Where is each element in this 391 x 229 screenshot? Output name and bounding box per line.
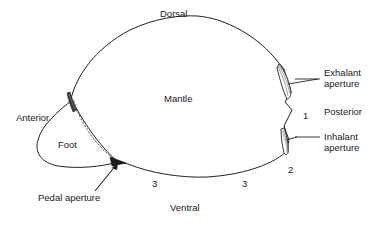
exhalant-leader-line: [288, 79, 318, 84]
label-inhalant-aperture-line1: Inhalant: [324, 131, 358, 142]
bivalve-anatomy-diagram: Dorsal Ventral Anterior Posterior Mantle…: [0, 0, 391, 229]
fusion-point-2: 2: [288, 164, 293, 175]
fusion-point-3-left: 3: [152, 178, 157, 189]
label-exhalant-aperture-line1: Exhalant: [324, 67, 361, 78]
label-posterior: Posterior: [324, 106, 362, 117]
label-pedal-aperture: Pedal aperture: [38, 192, 100, 203]
label-anterior: Anterior: [16, 112, 49, 123]
fusion-point-1: 1: [303, 110, 308, 121]
label-foot: Foot: [58, 139, 77, 150]
fusion-point-3-right: 3: [242, 178, 247, 189]
label-ventral: Ventral: [170, 202, 200, 213]
label-inhalant-aperture-line2: aperture: [324, 142, 359, 153]
label-mantle: Mantle: [164, 93, 193, 104]
label-dorsal: Dorsal: [160, 8, 187, 19]
label-exhalant-aperture-line2: aperture: [324, 78, 359, 89]
